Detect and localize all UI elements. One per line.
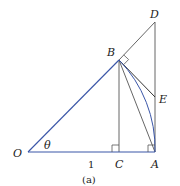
figure-caption: (a) [82, 174, 96, 185]
segment-OB [28, 60, 119, 152]
label-O: O [13, 147, 22, 160]
right-angle-marker-C [112, 145, 119, 152]
label-E: E [158, 93, 167, 106]
label-A: A [150, 158, 159, 171]
segment-BD [119, 22, 155, 60]
label-C: C [115, 158, 124, 171]
angle-theta-label: θ [44, 139, 51, 152]
diagram: O B D E C A θ 1 (a) [0, 0, 180, 186]
right-angle-marker-B [124, 55, 129, 65]
label-D: D [149, 8, 159, 21]
label-B: B [106, 46, 115, 59]
length-label-1: 1 [88, 159, 94, 170]
segment-BA [119, 60, 155, 152]
